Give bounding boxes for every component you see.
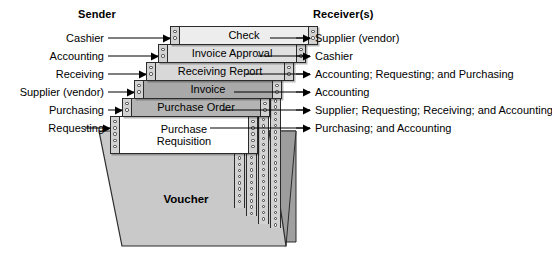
feed-strip-left (135, 81, 144, 98)
receiver-label-5: Purchasing; and Accounting (315, 122, 451, 134)
document-purchase-requisition[interactable]: Purchase Requisition (110, 116, 258, 154)
sender-label-4: Purchasing (0, 104, 104, 116)
sender-label-0: Cashier (0, 32, 104, 44)
document-label: Purchase Requisition (120, 117, 248, 153)
receiver-arrow-3 (296, 92, 310, 93)
feed-holes (249, 117, 257, 153)
document-label: Receiving Report (156, 63, 284, 80)
sender-arrow-5 (85, 128, 110, 129)
sender-label-3: Supplier (vendor) (0, 86, 104, 98)
receiver-arrow-4 (296, 110, 310, 111)
receiver-label-0: Supplier (vendor) (315, 32, 399, 44)
feed-strip-right (248, 117, 257, 153)
document-label: Purchase Order (132, 99, 260, 116)
feed-strip-right (284, 63, 293, 80)
feed-holes (111, 117, 119, 153)
feed-holes (261, 99, 269, 116)
sender-arrow-4 (108, 110, 122, 111)
sender-column-heading: Sender (78, 8, 116, 20)
document-receiving-report[interactable]: Receiving Report (146, 62, 294, 81)
feed-strip-right (260, 99, 269, 116)
document-check[interactable]: Check (170, 26, 318, 45)
sender-arrow-1 (108, 56, 158, 57)
sender-label-2: Receiving (0, 68, 104, 80)
receiver-label-2: Accounting; Requesting; and Purchasing (315, 68, 514, 80)
voucher-label: Voucher (163, 193, 209, 205)
receiver-arrow-1 (296, 56, 310, 57)
document-purchase-order[interactable]: Purchase Order (122, 98, 270, 117)
sender-arrow-2 (108, 74, 146, 75)
feed-strip-left (159, 45, 168, 62)
feed-holes (123, 99, 131, 116)
feed-holes (273, 81, 281, 98)
receiver-column-heading: Receiver(s) (313, 8, 373, 20)
document-label: Check (180, 27, 308, 44)
receiver-arrow-2 (296, 74, 310, 75)
feed-strip-left (147, 63, 156, 80)
sender-label-1: Accounting (0, 50, 104, 62)
document-invoice[interactable]: Invoice (134, 80, 282, 99)
receiver-label-4: Supplier; Requesting; Receiving; and Acc… (315, 104, 552, 116)
feed-strip-left (111, 117, 120, 153)
feed-strip-left (123, 99, 132, 116)
sender-arrow-3 (108, 92, 134, 93)
feed-holes (147, 63, 155, 80)
feed-holes (159, 45, 167, 62)
document-label: Invoice Approval (168, 45, 296, 62)
feed-holes (285, 63, 293, 80)
feed-strip-right (272, 81, 281, 98)
receiver-arrow-0 (296, 38, 310, 39)
diagram-canvas: Sender Receiver(s) Voucher Cashier Accou… (0, 0, 552, 259)
receiver-arrow-5 (296, 128, 310, 129)
feed-holes (171, 27, 179, 44)
document-label: Invoice (144, 81, 272, 98)
feed-holes (135, 81, 143, 98)
receiver-label-1: Cashier (315, 50, 353, 62)
feed-strip-left (171, 27, 180, 44)
receiver-label-3: Accounting (315, 86, 369, 98)
sender-arrow-0 (108, 38, 170, 39)
receiver-connector-5 (210, 128, 310, 129)
document-invoice-approval[interactable]: Invoice Approval (158, 44, 306, 63)
